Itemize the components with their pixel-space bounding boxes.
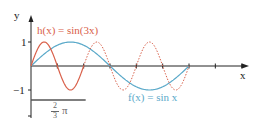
y-axis-label: y — [14, 10, 20, 21]
scale-frac-num: 2 — [51, 102, 59, 110]
y-tick-1: 1 — [21, 37, 27, 48]
h-legend-label: h(x) = sin(3x) — [37, 25, 98, 36]
x-axis-label: x — [240, 70, 246, 81]
function-plot — [0, 0, 259, 127]
y-tick-minus-1: −1 — [13, 85, 25, 96]
f-legend-label: f(x) = sin x — [128, 92, 177, 103]
scale-pi-label: π — [62, 105, 68, 116]
scale-frac-den: 3 — [51, 111, 59, 119]
